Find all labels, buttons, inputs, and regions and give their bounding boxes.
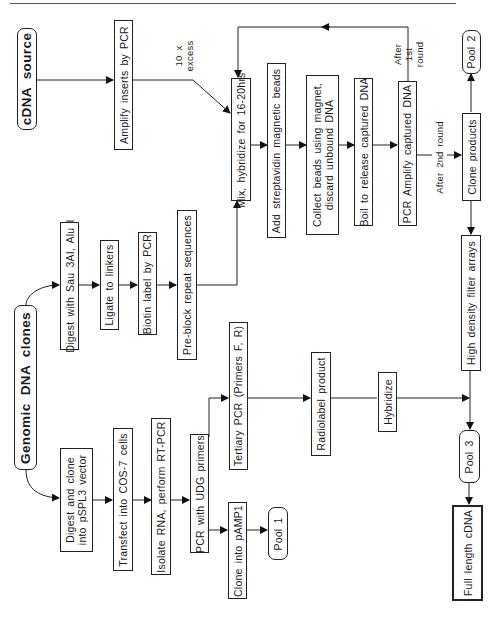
clone-products-label: Clone products bbox=[466, 119, 478, 194]
cdna-source-node: cDNA source bbox=[17, 28, 37, 130]
after-first-round-label: After 1st round bbox=[393, 41, 426, 66]
tertiary-pcr-label: Tertiary PCR (Primers F, R) bbox=[233, 326, 245, 467]
clone-products-node: Clone products bbox=[462, 113, 481, 201]
digest-clone-node: Digest and clone into pSPL3 vector bbox=[60, 448, 93, 552]
pool2-label: Pool 2 bbox=[466, 36, 478, 69]
after-first-line2: 1st bbox=[404, 41, 415, 66]
transfect-label: Transfect into COS-7 cells bbox=[117, 433, 129, 566]
radiolabel-node: Radiolabel product bbox=[311, 352, 331, 456]
biotin-node: Biotin label by PCR bbox=[138, 232, 157, 335]
radiolabel-label: Radiolabel product bbox=[315, 357, 327, 450]
clone-pamp1-node: Clone into pAMP1 bbox=[228, 502, 247, 599]
pool1-label: Pool 1 bbox=[272, 517, 284, 550]
ligate-label: Ligate to linkers bbox=[104, 245, 116, 326]
isolate-rna-node: Isolate RNA, perform RT-PCR bbox=[151, 418, 171, 575]
after-second-round-label: After 2nd round bbox=[434, 121, 445, 194]
biotin-label: Biotin label by PCR bbox=[142, 233, 154, 333]
pcr-udg-label: PCR with UDG primers bbox=[194, 435, 206, 553]
digest-clone-line2: into pSPL3 vector bbox=[77, 455, 89, 545]
preblock-label: Pre-block repeat sequences bbox=[181, 215, 193, 355]
after-first-line3: round bbox=[415, 41, 426, 66]
digest-sau-label: Digest with Sau 3AI, Alu I bbox=[64, 219, 76, 352]
digest-clone-line1: Digest and clone bbox=[65, 455, 77, 545]
collect-beads-node: Collect beads using magnet, discard unbo… bbox=[306, 75, 339, 235]
hybridize-label: Hybridize bbox=[382, 379, 394, 425]
amplify-inserts-label: Amplify inserts by PCR bbox=[118, 26, 130, 144]
genomic-source-label: Genomic DNA clones bbox=[20, 312, 32, 464]
pcr-amplify-label: PCR Amplify captured DNA bbox=[402, 84, 414, 223]
pool1-node: Pool 1 bbox=[268, 507, 288, 560]
filter-arrays-node: High density filter arrays bbox=[461, 235, 481, 371]
full-length-cdna-node: Full length cDNA bbox=[452, 505, 483, 601]
amplify-inserts-node: Amplify inserts by PCR bbox=[114, 20, 133, 150]
excess-annotation: 10 x excess bbox=[172, 36, 196, 76]
collect-beads-line2: discard unbound DNA bbox=[323, 83, 335, 227]
pool3-node: Pool 3 bbox=[459, 430, 480, 483]
boil-node: Boil to release captured DNA bbox=[354, 78, 373, 226]
preblock-node: Pre-block repeat sequences bbox=[177, 210, 197, 360]
collect-beads-label: Collect beads using magnet, discard unbo… bbox=[311, 83, 335, 227]
streptavidin-node: Add streptavidin magnetic beads bbox=[267, 63, 286, 238]
mix-hybridize-label: Mix, hybridize for 16-20hrs bbox=[235, 72, 247, 207]
collect-beads-line1: Collect beads using magnet, bbox=[311, 83, 323, 227]
filter-arrays-label: High density filter arrays bbox=[465, 241, 477, 365]
genomic-dna-source-node: Genomic DNA clones bbox=[14, 305, 37, 470]
digest-clone-label: Digest and clone into pSPL3 vector bbox=[65, 455, 89, 545]
boil-label: Boil to release captured DNA bbox=[358, 77, 370, 226]
full-length-cdna-label: Full length cDNA bbox=[462, 510, 474, 596]
pcr-amplify-node: PCR Amplify captured DNA bbox=[398, 81, 417, 226]
mix-hybridize-node: Mix, hybridize for 16-20hrs bbox=[231, 78, 251, 201]
transfect-node: Transfect into COS-7 cells bbox=[113, 428, 133, 571]
excess-label: 10 x excess bbox=[173, 41, 195, 72]
isolate-rna-label: Isolate RNA, perform RT-PCR bbox=[155, 421, 167, 572]
ligate-node: Ligate to linkers bbox=[100, 240, 119, 330]
streptavidin-label: Add streptavidin magnetic beads bbox=[271, 68, 283, 233]
pool2-node: Pool 2 bbox=[462, 30, 481, 74]
cdna-source-label: cDNA source bbox=[21, 33, 33, 126]
after-first-round-annotation: After 1st round bbox=[388, 34, 430, 74]
digest-sau-node: Digest with Sau 3AI, Alu I bbox=[60, 222, 79, 350]
hybridize-node: Hybridize bbox=[378, 372, 397, 432]
pcr-udg-node: PCR with UDG primers bbox=[190, 434, 209, 553]
clone-pamp1-label: Clone into pAMP1 bbox=[232, 505, 244, 597]
after-first-line1: After bbox=[393, 41, 404, 66]
pool3-label: Pool 3 bbox=[464, 440, 476, 473]
tertiary-pcr-node: Tertiary PCR (Primers F, R) bbox=[229, 322, 248, 470]
after-second-round-annotation: After 2nd round bbox=[432, 118, 447, 196]
